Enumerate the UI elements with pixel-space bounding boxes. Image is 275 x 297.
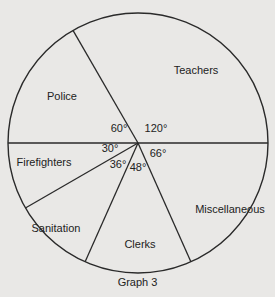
slice-boundary bbox=[73, 30, 138, 143]
slice-label: Police bbox=[47, 90, 77, 102]
slice-angle-label: 60° bbox=[111, 122, 128, 134]
slice-label: Clerks bbox=[124, 238, 156, 250]
slice-label: Teachers bbox=[174, 64, 219, 76]
pie-labels: Teachers120°Miscellaneous66°Clerks48°San… bbox=[16, 64, 265, 250]
slice-angle-label: 66° bbox=[150, 147, 167, 159]
slice-angle-label: 48° bbox=[130, 161, 147, 173]
slice-label: Miscellaneous bbox=[195, 203, 265, 215]
pie-chart: Teachers120°Miscellaneous66°Clerks48°San… bbox=[0, 0, 275, 297]
slice-angle-label: 120° bbox=[145, 122, 168, 134]
slice-angle-label: 36° bbox=[110, 158, 127, 170]
slice-label: Firefighters bbox=[16, 156, 72, 168]
slice-angle-label: 30° bbox=[102, 142, 119, 154]
slice-label: Sanitation bbox=[32, 222, 81, 234]
slice-boundary bbox=[25, 143, 138, 208]
pie-lines bbox=[8, 13, 268, 273]
chart-caption: Graph 3 bbox=[0, 276, 275, 288]
